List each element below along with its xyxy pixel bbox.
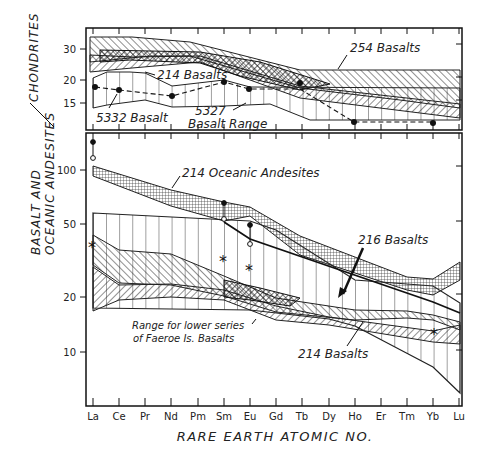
top-ytick-15: 15 — [63, 98, 76, 109]
svg-text:Ho: Ho — [348, 411, 362, 422]
svg-text:Tm: Tm — [398, 411, 415, 422]
top-ytick-20: 20 — [63, 75, 76, 86]
bottom-ytick-10: 10 — [63, 347, 76, 358]
svg-text:Pr: Pr — [140, 411, 151, 422]
svg-text:Eu: Eu — [244, 411, 257, 422]
label-faeroe-a: Range for lower series — [132, 320, 244, 331]
x-tick-labels: La Ce Pr Nd Pm Sm Eu Gd Tb Dy Ho Er Tm Y… — [87, 411, 465, 422]
x-axis-title: RARE EARTH ATOMIC NO. — [177, 429, 374, 444]
svg-text:*: * — [88, 238, 96, 257]
label-5327: 5327 — [195, 104, 226, 118]
label-214-basalts-bottom: 214 Basalts — [298, 347, 368, 361]
bottom-panel: * * * * 100 50 20 10 214 Oceanic Andesit… — [57, 133, 462, 406]
label-254-basalts: 254 Basalts — [350, 41, 420, 55]
bottom-ytick-50: 50 — [63, 219, 76, 230]
top-panel: 30 20 15 254 Basalts 214 Basalts 5332 Ba… — [63, 28, 462, 131]
svg-text:Lu: Lu — [453, 411, 465, 422]
svg-text:CHONDRITES: CHONDRITES — [27, 13, 41, 102]
y-axis-title: BASALT AND OCEANIC ANDESITES CHONDRITES — [27, 13, 57, 255]
label-5332-basalt: 5332 Basalt — [96, 111, 169, 125]
svg-text:Ce: Ce — [112, 411, 125, 422]
label-216-basalts: 216 Basalts — [358, 233, 428, 247]
svg-text:*: * — [245, 261, 253, 280]
svg-text:Sm: Sm — [216, 411, 232, 422]
svg-text:*: * — [219, 252, 227, 271]
svg-text:Tb: Tb — [295, 411, 308, 422]
svg-text:Nd: Nd — [164, 411, 178, 422]
svg-text:OCEANIC ANDESITES: OCEANIC ANDESITES — [43, 112, 57, 255]
arrow-214-andesites — [172, 176, 180, 188]
svg-text:*: * — [430, 325, 438, 344]
label-214-basalts-top: 214 Basalts — [157, 68, 227, 82]
svg-text:La: La — [87, 411, 99, 422]
label-faeroe-b: of Faeroe Is. Basalts — [133, 333, 234, 344]
svg-text:Gd: Gd — [269, 411, 283, 422]
bottom-ytick-20: 20 — [63, 292, 76, 303]
label-214-oceanic-andesites: 214 Oceanic Andesites — [182, 166, 320, 180]
bottom-ytick-100: 100 — [57, 165, 76, 176]
svg-text:Pm: Pm — [190, 411, 206, 422]
ree-chart: 30 20 15 254 Basalts 214 Basalts 5332 Ba… — [0, 0, 492, 458]
arrow-faeroe — [252, 319, 256, 324]
svg-text:Yb: Yb — [426, 411, 439, 422]
top-ytick-30: 30 — [63, 44, 76, 55]
svg-text:Dy: Dy — [322, 411, 336, 422]
svg-text:Er: Er — [376, 411, 387, 422]
label-5327-range: Basalt Range — [188, 117, 267, 131]
arrow-254 — [338, 55, 347, 69]
svg-text:BASALT AND: BASALT AND — [29, 169, 43, 255]
